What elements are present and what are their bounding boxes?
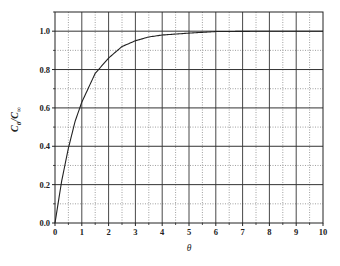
y-tick-label: 1.0 <box>39 26 50 36</box>
y-axis-title: Cθ/C∞ <box>9 107 23 132</box>
y-axis-ticks: 0.00.20.40.60.81.0 <box>39 12 55 228</box>
x-tick-label: 6 <box>214 227 218 237</box>
x-tick-label: 7 <box>240 227 245 237</box>
chart: 012345678910 0.00.20.40.60.81.0 θ Cθ/C∞ <box>0 0 340 266</box>
x-axis-title: θ <box>187 243 192 253</box>
x-tick-label: 8 <box>267 227 271 237</box>
x-tick-label: 10 <box>319 227 328 237</box>
x-tick-label: 0 <box>53 227 57 237</box>
x-tick-label: 9 <box>294 227 298 237</box>
y-tick-label: 0.6 <box>39 103 50 113</box>
x-tick-label: 2 <box>106 227 110 237</box>
x-axis-ticks: 012345678910 <box>53 223 327 237</box>
y-tick-label: 0.2 <box>39 180 50 190</box>
x-tick-label: 3 <box>133 227 137 237</box>
x-tick-label: 5 <box>187 227 191 237</box>
y-tick-label: 0.8 <box>39 65 50 75</box>
x-tick-label: 1 <box>80 227 84 237</box>
y-tick-label: 0.0 <box>39 218 50 228</box>
x-tick-label: 4 <box>160 227 165 237</box>
y-tick-label: 0.4 <box>39 141 50 151</box>
